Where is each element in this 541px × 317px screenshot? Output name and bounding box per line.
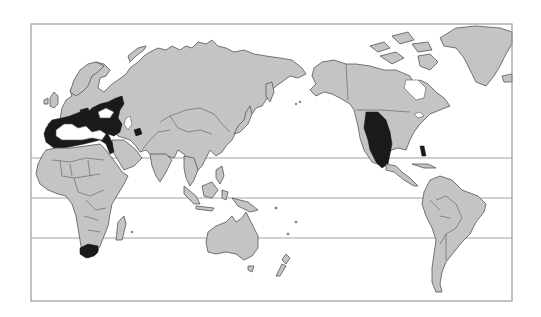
landmass-africa (36, 144, 128, 258)
world-map (0, 0, 541, 317)
landmass-kamchatka (266, 82, 274, 102)
landmass-madagascar (116, 216, 126, 240)
oceania (206, 212, 290, 276)
landmass-cuba (412, 164, 436, 168)
landmass-new-zealand-north (282, 254, 290, 264)
landmass-ireland (44, 98, 48, 104)
landmass-borneo (202, 182, 218, 198)
landmass-central-america (386, 164, 418, 186)
range-florida (420, 146, 426, 156)
landmass-arctic-archipelago-2 (392, 32, 414, 44)
south-america (422, 176, 486, 292)
landmass-baffin-island (418, 54, 438, 70)
landmass-india (150, 154, 172, 182)
landmass-new-zealand-south (276, 264, 286, 276)
landmass-australia (206, 212, 258, 260)
north-america (310, 26, 512, 186)
landmass-new-guinea (232, 198, 258, 212)
landmass-greenland (440, 26, 512, 86)
landmass-arctic-archipelago-1 (370, 42, 390, 52)
landmass-philippines (216, 166, 224, 184)
landmass-tasmania (248, 266, 254, 272)
landmass-arctic-archipelago-4 (412, 42, 432, 52)
landmass-south-america (422, 176, 486, 292)
landmass-british-isles (50, 92, 58, 108)
landmass-java (196, 206, 214, 211)
landmass-sulawesi (222, 190, 228, 200)
landmass-arctic-archipelago-3 (380, 52, 404, 64)
landmass-iceland (502, 74, 512, 82)
landmass-sumatra (184, 186, 200, 204)
africa (36, 144, 128, 258)
